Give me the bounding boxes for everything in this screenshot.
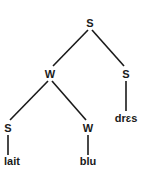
node-w2: W xyxy=(83,122,94,134)
node-s3: S xyxy=(4,122,11,134)
edge-root-s2 xyxy=(92,30,124,66)
node-w1: W xyxy=(45,68,56,80)
edge-w1-s3 xyxy=(10,81,48,120)
leaf-dres: drɛs xyxy=(115,112,138,124)
edge-w1-w2 xyxy=(52,81,86,120)
node-root-s: S xyxy=(86,17,93,29)
leaf-lait: lait xyxy=(4,155,20,167)
edge-root-w1 xyxy=(53,30,88,66)
node-s2: S xyxy=(122,68,129,80)
leaf-blu: blu xyxy=(80,155,97,167)
metrical-tree-diagram: S W S S W lait blu drɛs xyxy=(0,0,157,176)
